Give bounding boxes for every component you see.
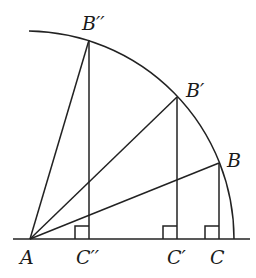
label-b-double-prime: B′′ <box>81 12 105 34</box>
right-angle-marker-c-double-prime <box>75 226 89 239</box>
label-b: B <box>226 149 241 171</box>
label-a: A <box>18 246 34 268</box>
label-c: C <box>210 246 225 268</box>
right-angle-marker-c-prime <box>163 226 177 239</box>
quarter-circle-diagram: A C′′ C′ C B′′ B′ B <box>0 0 256 278</box>
segment-a-b-prime <box>30 97 177 239</box>
right-angle-marker-c <box>205 226 219 239</box>
label-c-prime: C′ <box>167 246 187 268</box>
circular-arc <box>29 31 234 239</box>
segment-a-b <box>30 163 219 239</box>
label-c-double-prime: C′′ <box>76 246 100 268</box>
segment-a-b-double-prime <box>30 40 89 239</box>
label-b-prime: B′ <box>185 79 205 101</box>
